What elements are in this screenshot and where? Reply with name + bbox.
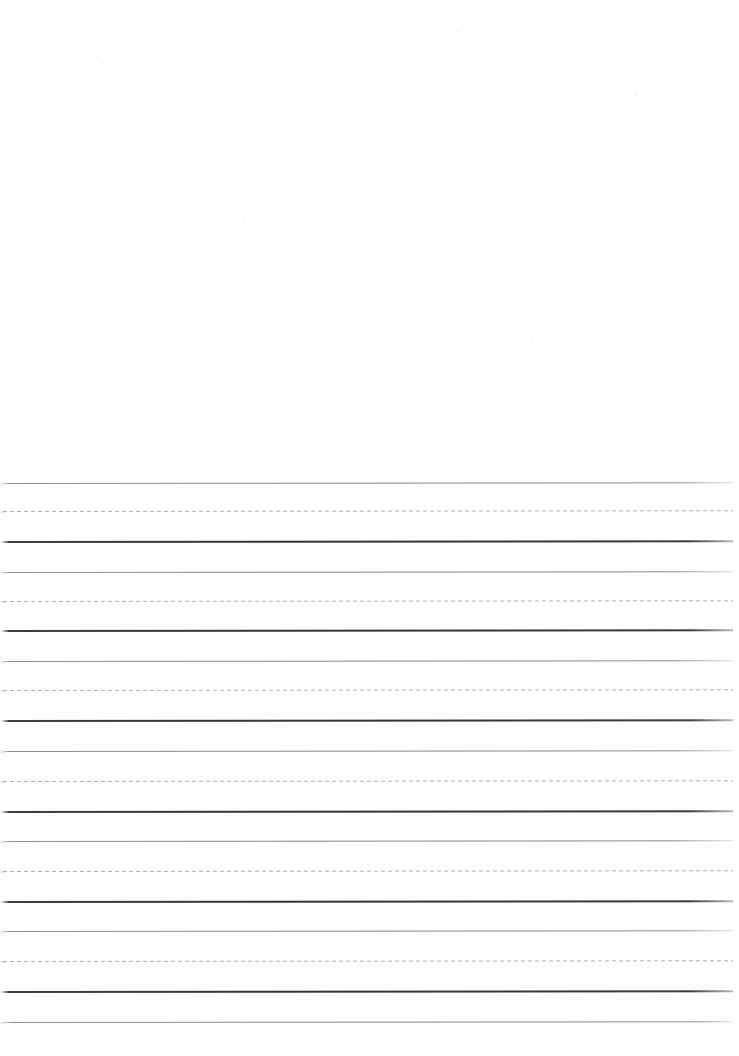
handwriting-practice-page xyxy=(0,0,739,1056)
writing-row-6-topline xyxy=(3,930,733,932)
writing-row-6-midline xyxy=(3,960,733,962)
writing-row-6-baseline xyxy=(3,990,733,993)
ruled-writing-area xyxy=(0,0,739,1056)
writing-row-6 xyxy=(0,0,739,1056)
